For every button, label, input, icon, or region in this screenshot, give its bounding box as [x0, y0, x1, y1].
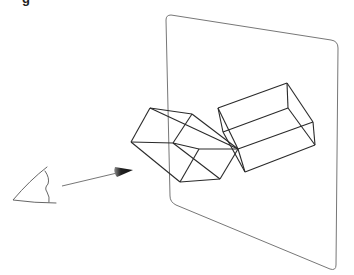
edge — [223, 108, 288, 132]
edge — [238, 122, 313, 149]
edge — [180, 149, 199, 182]
edge — [192, 114, 238, 149]
edge — [287, 83, 288, 108]
edge — [223, 132, 245, 172]
projection-diagram — [0, 0, 354, 275]
edge — [131, 142, 173, 143]
edge — [180, 179, 220, 182]
edge — [131, 108, 150, 142]
edge — [313, 122, 315, 145]
view-direction-arrow — [62, 167, 133, 186]
edge — [218, 108, 223, 132]
edge — [173, 114, 192, 143]
edge — [245, 145, 315, 172]
edge — [131, 142, 180, 182]
projection-plane — [166, 15, 338, 270]
edge — [218, 83, 287, 108]
eye-icon — [13, 167, 56, 203]
left-wireframe-box — [131, 108, 238, 182]
arrow-cone-icon — [114, 167, 133, 177]
edge — [287, 83, 313, 122]
edge — [218, 108, 238, 149]
